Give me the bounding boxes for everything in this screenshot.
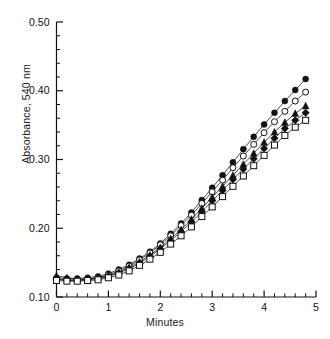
data-point	[292, 117, 299, 124]
data-point	[178, 233, 184, 239]
x-tick-label: 0	[54, 301, 60, 313]
data-point	[95, 277, 101, 283]
x-tick-label: 5	[313, 301, 319, 313]
data-point	[261, 121, 267, 127]
data-point	[261, 152, 267, 158]
data-series	[54, 76, 309, 281]
data-point	[282, 108, 288, 114]
data-point	[116, 272, 122, 278]
data-point	[261, 130, 267, 136]
y-tick-label: 0.40	[29, 84, 50, 96]
x-tick-label: 1	[105, 301, 111, 313]
y-tick-label: 0.50	[29, 16, 50, 28]
data-point	[74, 278, 80, 284]
data-point	[147, 256, 153, 262]
data-point	[126, 268, 132, 274]
data-point	[271, 142, 277, 148]
figure: 0.100.200.300.400.50012345 Absorbance, 5…	[0, 0, 330, 339]
data-point	[230, 165, 236, 171]
data-point	[240, 146, 246, 152]
y-tick-label: 0.10	[29, 291, 50, 303]
data-point	[282, 98, 288, 104]
tick-labels-group: 0.100.200.300.400.50012345	[29, 16, 319, 313]
data-point	[230, 183, 236, 189]
data-point	[292, 98, 298, 104]
y-tick-label: 0.30	[29, 153, 50, 165]
data-point	[303, 76, 309, 82]
data-point	[209, 204, 215, 210]
x-tick-label: 2	[157, 301, 163, 313]
series-line	[57, 79, 306, 278]
data-point	[199, 214, 205, 220]
y-tick-label: 0.20	[29, 222, 50, 234]
x-axis-label: Minutes	[0, 316, 330, 328]
data-point	[240, 153, 246, 159]
data-point	[188, 224, 194, 230]
data-point	[251, 134, 257, 140]
data-point	[303, 117, 309, 123]
data-point	[85, 278, 91, 284]
data-series	[54, 89, 309, 283]
data-point	[302, 109, 309, 116]
x-tick-label: 3	[209, 301, 215, 313]
data-point	[251, 141, 257, 147]
data-point	[282, 132, 288, 138]
data-point	[157, 249, 163, 255]
data-point	[137, 262, 143, 268]
data-point	[168, 241, 174, 247]
series-line	[57, 106, 306, 279]
axes-group	[57, 22, 317, 297]
y-axis-label: Absorbance, 540 nm	[20, 44, 32, 184]
x-tick-label: 4	[261, 301, 267, 313]
data-point	[54, 278, 60, 284]
data-series	[53, 102, 309, 282]
chart-canvas: 0.100.200.300.400.50012345	[0, 0, 330, 339]
data-point	[240, 173, 246, 179]
data-point	[281, 119, 288, 126]
data-point	[64, 278, 70, 284]
data-point	[292, 124, 298, 130]
data-point	[292, 87, 298, 93]
data-point	[105, 275, 111, 281]
series-group	[53, 76, 310, 284]
data-point	[292, 110, 299, 117]
data-point	[220, 194, 226, 200]
data-point	[271, 110, 277, 116]
data-point	[251, 163, 257, 169]
data-point	[303, 89, 309, 95]
data-point	[302, 102, 309, 109]
data-point	[271, 119, 277, 125]
